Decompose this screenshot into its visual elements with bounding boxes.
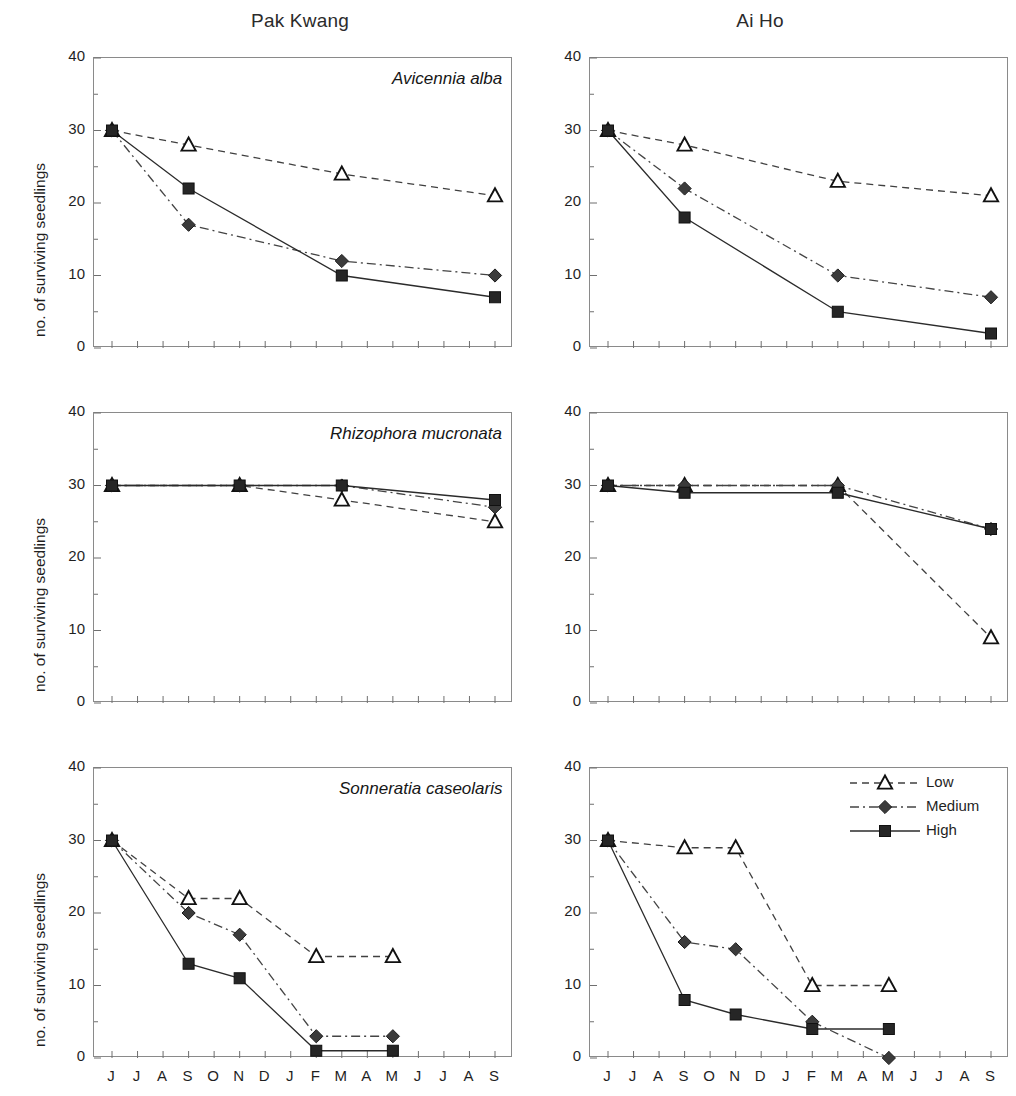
- data-point-high: [807, 1024, 818, 1035]
- x-tick-label: A: [953, 1067, 975, 1084]
- y-tick-label: 10: [51, 620, 85, 637]
- plot-panel-pak_kwang-avicennia: [93, 57, 512, 347]
- y-tick-label: 0: [51, 692, 85, 709]
- x-tick-label: J: [622, 1067, 644, 1084]
- column-title-pak_kwang: Pak Kwang: [170, 10, 430, 32]
- x-tick-label: A: [151, 1067, 173, 1084]
- y-tick-label: 20: [51, 192, 85, 209]
- data-point-medium: [335, 254, 348, 267]
- plot-panel-pak_kwang-sonneratia: [93, 767, 512, 1057]
- series-line-high: [112, 486, 495, 501]
- y-tick-label: 10: [547, 975, 581, 992]
- series-line-high: [608, 131, 991, 334]
- data-point-high: [107, 125, 118, 136]
- plot-panel-ai_ho-avicennia: [589, 57, 1008, 347]
- data-point-medium: [233, 928, 246, 941]
- plot-canvas-pak_kwang-avicennia: [94, 58, 513, 348]
- x-tick-label: S: [979, 1067, 1001, 1084]
- x-tick-label: J: [100, 1067, 122, 1084]
- figure-root: Pak KwangAi Ho010203040Avicennia alba010…: [0, 0, 1016, 1096]
- plot-canvas-pak_kwang-rhizophora: [94, 413, 513, 703]
- data-point-high: [986, 328, 997, 339]
- x-tick-label: M: [381, 1067, 403, 1084]
- y-tick-label: 40: [547, 757, 581, 774]
- plot-panel-pak_kwang-rhizophora: [93, 412, 512, 702]
- column-title-ai_ho: Ai Ho: [660, 10, 860, 32]
- x-tick-label: J: [775, 1067, 797, 1084]
- x-tick-label: A: [355, 1067, 377, 1084]
- data-point-medium: [882, 1051, 895, 1064]
- data-point-low: [233, 891, 247, 904]
- y-axis-label: no. of surviving seedlings: [31, 163, 49, 337]
- legend-label: High: [926, 821, 957, 838]
- data-point-medium: [386, 1030, 399, 1043]
- legend-swatch-high: [848, 821, 922, 841]
- data-point-low: [882, 978, 896, 991]
- data-point-high: [387, 1045, 398, 1056]
- x-tick-label: A: [457, 1067, 479, 1084]
- x-tick-label: S: [673, 1067, 695, 1084]
- data-point-high: [234, 480, 245, 491]
- y-tick-label: 20: [51, 547, 85, 564]
- legend-swatch-medium: [848, 797, 922, 817]
- x-tick-label: D: [749, 1067, 771, 1084]
- plot-panel-ai_ho-rhizophora: [589, 412, 1008, 702]
- data-point-high: [603, 480, 614, 491]
- data-point-high: [832, 487, 843, 498]
- data-point-low: [729, 840, 743, 853]
- series-line-low: [608, 486, 991, 638]
- series-line-medium: [608, 486, 991, 530]
- data-point-low: [805, 978, 819, 991]
- y-tick-label: 40: [51, 402, 85, 419]
- x-tick-label: F: [800, 1067, 822, 1084]
- x-tick-label: D: [253, 1067, 275, 1084]
- y-tick-label: 30: [547, 120, 581, 137]
- x-tick-label: S: [177, 1067, 199, 1084]
- x-tick-label: M: [826, 1067, 848, 1084]
- y-tick-label: 40: [51, 47, 85, 64]
- plot-canvas-ai_ho-avicennia: [590, 58, 1009, 348]
- plot-canvas-ai_ho-rhizophora: [590, 413, 1009, 703]
- data-point-low: [488, 188, 502, 201]
- y-tick-label: 10: [51, 265, 85, 282]
- data-point-high: [183, 183, 194, 194]
- legend-item-medium: Medium: [848, 797, 1003, 819]
- data-point-medium: [678, 935, 691, 948]
- data-point-high: [986, 524, 997, 535]
- data-point-high: [336, 270, 347, 281]
- y-tick-label: 0: [547, 1047, 581, 1064]
- data-point-high: [603, 125, 614, 136]
- y-tick-label: 40: [547, 402, 581, 419]
- x-tick-label: J: [432, 1067, 454, 1084]
- data-point-high: [490, 292, 501, 303]
- data-point-high: [832, 306, 843, 317]
- series-line-low: [112, 841, 393, 957]
- data-point-low: [309, 949, 323, 962]
- x-tick-label: N: [724, 1067, 746, 1084]
- data-point-medium: [488, 269, 501, 282]
- y-tick-label: 40: [547, 47, 581, 64]
- series-line-high: [608, 841, 889, 1030]
- data-point-high: [107, 480, 118, 491]
- data-point-low: [335, 493, 349, 506]
- series-line-medium: [608, 131, 991, 298]
- x-tick-label: M: [877, 1067, 899, 1084]
- y-axis-label: no. of surviving seedlings: [31, 873, 49, 1047]
- data-point-low: [677, 840, 691, 853]
- data-point-medium: [310, 1030, 323, 1043]
- y-tick-label: 10: [51, 975, 85, 992]
- x-tick-label: F: [304, 1067, 326, 1084]
- data-point-low: [488, 514, 502, 527]
- y-tick-label: 20: [547, 902, 581, 919]
- data-point-low: [386, 949, 400, 962]
- species-label-sonneratia: Sonneratia caseolaris: [339, 779, 502, 799]
- series-line-high: [608, 486, 991, 530]
- y-tick-label: 20: [547, 192, 581, 209]
- x-tick-label: N: [228, 1067, 250, 1084]
- data-point-high: [679, 995, 690, 1006]
- x-tick-label: J: [928, 1067, 950, 1084]
- y-tick-label: 0: [547, 692, 581, 709]
- series-line-medium: [608, 841, 889, 1059]
- y-axis-label: no. of surviving seedlings: [31, 518, 49, 692]
- x-tick-label: J: [126, 1067, 148, 1084]
